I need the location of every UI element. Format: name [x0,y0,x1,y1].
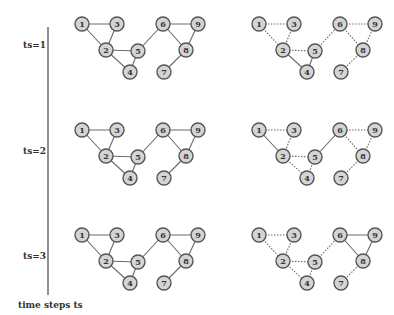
svg-text:2: 2 [103,256,109,266]
svg-text:4: 4 [304,173,310,183]
svg-text:3: 3 [114,230,120,240]
svg-text:6: 6 [337,125,343,135]
svg-text:2: 2 [280,45,286,55]
svg-text:9: 9 [195,19,201,29]
node-4: 4 [300,65,314,79]
svg-text:4: 4 [304,67,310,77]
svg-text:5: 5 [312,46,318,56]
node-8: 8 [179,43,193,57]
ts-label-2: ts=2 [6,146,46,156]
node-6: 6 [333,17,347,31]
svg-text:7: 7 [338,67,344,77]
node-2: 2 [276,149,290,163]
svg-text:2: 2 [280,151,286,161]
node-6: 6 [333,228,347,242]
svg-text:2: 2 [103,151,109,161]
node-2: 2 [99,149,113,163]
svg-text:9: 9 [195,125,201,135]
svg-text:6: 6 [160,230,166,240]
node-4: 4 [123,276,137,290]
node-5: 5 [131,255,145,269]
svg-text:4: 4 [127,278,133,288]
node-8: 8 [356,149,370,163]
graph-full-ts2: 132546987 [75,123,205,185]
svg-text:6: 6 [160,19,166,29]
node-9: 9 [368,228,382,242]
node-3: 3 [110,123,124,137]
node-4: 4 [300,276,314,290]
temporal-graph-figure: 1325469871325469871325469871325469871325… [0,0,394,315]
node-2: 2 [276,43,290,57]
node-2: 2 [99,43,113,57]
node-5: 5 [308,150,322,164]
svg-text:5: 5 [135,257,141,267]
svg-text:8: 8 [360,45,366,55]
svg-text:7: 7 [161,278,167,288]
time-axis-caption: time steps ts [18,300,83,310]
svg-text:6: 6 [160,125,166,135]
node-3: 3 [287,123,301,137]
node-4: 4 [123,171,137,185]
node-8: 8 [179,254,193,268]
graph-active-ts1: 132546987 [252,17,382,79]
node-4: 4 [300,171,314,185]
node-7: 7 [334,171,348,185]
svg-text:8: 8 [360,151,366,161]
svg-text:1: 1 [79,125,85,135]
svg-text:3: 3 [114,125,120,135]
node-3: 3 [287,228,301,242]
node-9: 9 [368,123,382,137]
node-7: 7 [157,65,171,79]
node-1: 1 [75,123,89,137]
svg-text:3: 3 [291,125,297,135]
ts-label-1: ts=1 [6,40,46,50]
svg-text:2: 2 [103,45,109,55]
svg-text:6: 6 [337,230,343,240]
svg-text:6: 6 [337,19,343,29]
node-5: 5 [131,150,145,164]
node-4: 4 [123,65,137,79]
svg-text:1: 1 [79,19,85,29]
node-1: 1 [252,123,266,137]
node-1: 1 [75,228,89,242]
svg-text:1: 1 [256,19,262,29]
node-1: 1 [252,17,266,31]
graph-full-ts1: 132546987 [75,17,205,79]
svg-text:3: 3 [291,19,297,29]
node-1: 1 [252,228,266,242]
graph-active-ts2: 132546987 [252,123,382,185]
node-3: 3 [287,17,301,31]
svg-text:8: 8 [360,256,366,266]
svg-text:3: 3 [114,19,120,29]
svg-text:5: 5 [312,152,318,162]
node-6: 6 [156,228,170,242]
node-9: 9 [191,123,205,137]
svg-text:9: 9 [195,230,201,240]
node-8: 8 [356,43,370,57]
svg-text:5: 5 [135,152,141,162]
node-6: 6 [156,123,170,137]
node-8: 8 [179,149,193,163]
node-5: 5 [131,44,145,58]
svg-text:9: 9 [372,125,378,135]
svg-text:7: 7 [338,173,344,183]
node-6: 6 [156,17,170,31]
node-2: 2 [276,254,290,268]
svg-text:8: 8 [183,45,189,55]
svg-text:5: 5 [312,257,318,267]
svg-text:4: 4 [304,278,310,288]
node-7: 7 [334,276,348,290]
node-2: 2 [99,254,113,268]
figure-canvas: 1325469871325469871325469871325469871325… [0,0,394,315]
svg-text:1: 1 [79,230,85,240]
svg-text:2: 2 [280,256,286,266]
node-8: 8 [356,254,370,268]
svg-text:3: 3 [291,230,297,240]
node-7: 7 [334,65,348,79]
node-7: 7 [157,171,171,185]
node-9: 9 [368,17,382,31]
node-6: 6 [333,123,347,137]
svg-text:7: 7 [161,67,167,77]
node-3: 3 [110,17,124,31]
graph-active-ts3: 132546987 [252,228,382,290]
